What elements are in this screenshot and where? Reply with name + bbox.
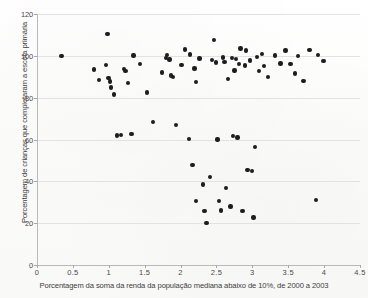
data-point [214, 60, 218, 64]
data-point [109, 85, 113, 89]
x-axis-line [37, 265, 360, 266]
data-point [301, 79, 305, 83]
data-point [235, 135, 239, 139]
data-point [273, 53, 277, 57]
data-point [250, 169, 254, 173]
data-point [151, 120, 155, 124]
data-point [192, 66, 196, 70]
data-point [248, 58, 252, 62]
data-point [92, 67, 96, 71]
data-point [104, 63, 108, 67]
x-tick-label: 3.5 [283, 268, 294, 277]
data-point [123, 69, 127, 73]
data-point [160, 70, 164, 74]
data-point [257, 69, 261, 73]
x-tick-label: 3 [250, 268, 254, 277]
data-point [262, 64, 266, 68]
x-tick-label: 2 [178, 268, 182, 277]
data-point [167, 57, 171, 61]
data-point [119, 133, 123, 137]
x-tick-label: 4.5 [354, 268, 365, 277]
x-tick-label: 4 [322, 268, 326, 277]
data-point [202, 209, 206, 213]
data-point [228, 204, 232, 208]
data-point [255, 55, 259, 59]
data-point [97, 78, 101, 82]
data-point [112, 92, 116, 96]
data-point [314, 198, 318, 202]
data-point [266, 75, 270, 79]
y-tick-label: 0 [0, 261, 33, 270]
data-point [307, 48, 311, 52]
data-point [131, 53, 135, 57]
plot-area [37, 14, 360, 265]
y-axis-title: Porcentagem de crianças que completaram … [20, 3, 29, 243]
data-point [208, 175, 212, 179]
data-point [232, 68, 236, 72]
x-axis-title: Porcentagem da soma da renda da populaçã… [0, 281, 368, 290]
data-point [260, 52, 264, 56]
data-point [238, 46, 242, 50]
data-point [204, 221, 208, 225]
data-point [293, 71, 297, 75]
x-tick-label: 1.5 [139, 268, 150, 277]
x-tick-label: 1 [107, 268, 111, 277]
data-point [237, 62, 241, 66]
x-tick-label: 0 [35, 268, 39, 277]
data-point [321, 59, 325, 63]
data-point [179, 63, 183, 67]
data-point [240, 209, 244, 213]
data-point [183, 47, 187, 51]
data-point [253, 145, 257, 149]
data-point [224, 186, 228, 190]
data-point [188, 52, 192, 56]
data-point [288, 62, 292, 66]
data-point [59, 54, 63, 58]
x-tick-label: 2.5 [211, 268, 222, 277]
data-point [145, 90, 149, 94]
data-point [197, 56, 201, 60]
data-point [316, 53, 320, 57]
data-point [296, 54, 300, 58]
data-point [217, 199, 221, 203]
data-point [219, 208, 223, 212]
data-point [194, 199, 198, 203]
data-point [215, 137, 219, 141]
data-point [126, 81, 130, 85]
data-point [234, 57, 238, 61]
x-tick-label: 0.5 [67, 268, 78, 277]
data-point [194, 80, 198, 84]
data-point [278, 61, 282, 65]
data-point [201, 182, 205, 186]
data-point [251, 215, 255, 219]
data-point [212, 38, 216, 42]
data-point [283, 48, 287, 52]
data-point [129, 132, 133, 136]
data-point [108, 79, 112, 83]
data-point [244, 48, 248, 52]
data-point [190, 163, 194, 167]
data-point [243, 63, 247, 67]
data-point [174, 123, 178, 127]
data-point [222, 60, 226, 64]
data-point [105, 32, 109, 36]
data-point [171, 75, 175, 79]
data-point [226, 77, 230, 81]
data-point [187, 137, 191, 141]
data-point [138, 62, 142, 66]
scatter-chart-figure: 020406080100120 00.511.522.533.544.5 Por… [0, 0, 368, 298]
